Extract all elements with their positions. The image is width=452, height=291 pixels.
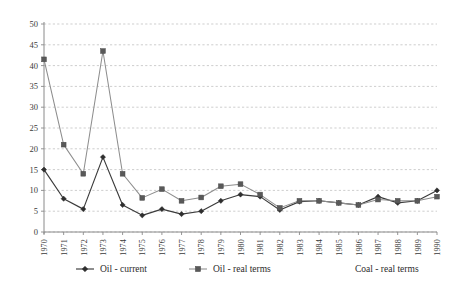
data-point-marker (415, 198, 420, 203)
x-tick-label: 1979 (217, 239, 226, 256)
chart-legend: Oil - currentOil - real termsCoal - real… (76, 264, 419, 274)
y-tick-label: 50 (30, 19, 39, 29)
x-tick-label: 1987 (374, 239, 383, 256)
data-point-marker (81, 171, 86, 176)
data-point-marker (160, 187, 165, 192)
data-point-marker (120, 202, 125, 207)
y-tick-label: 5 (34, 206, 38, 216)
data-point-marker (199, 195, 204, 200)
y-tick-label: 30 (30, 102, 39, 112)
x-tick-label: 1971 (60, 239, 69, 256)
x-tick-label: 1978 (197, 239, 206, 256)
data-point-marker (376, 197, 381, 202)
y-tick-label: 15 (30, 165, 39, 175)
data-series (41, 49, 439, 218)
y-tick-label: 40 (30, 61, 39, 71)
x-tick-label: 1981 (256, 239, 265, 256)
data-point-marker (199, 209, 204, 214)
data-point-marker (140, 195, 145, 200)
legend-item-label: Oil - real terms (213, 264, 271, 274)
data-point-marker (61, 142, 66, 147)
x-tick-label: 1980 (237, 239, 246, 256)
data-point-marker (101, 49, 106, 54)
x-tick-label: 1985 (335, 239, 344, 256)
data-point-marker (120, 171, 125, 176)
data-point-marker (218, 184, 223, 189)
data-point-marker (258, 192, 263, 197)
data-point-marker (336, 200, 341, 205)
x-tick-label: 1972 (80, 239, 89, 256)
data-point-marker (356, 203, 361, 208)
x-tick-label: 1975 (138, 239, 147, 256)
x-tick-label: 1973 (99, 239, 108, 256)
legend-marker-square-icon (195, 266, 200, 271)
legend-marker-diamond-icon (82, 266, 88, 272)
data-point-marker (140, 213, 145, 218)
legend-item-label: Coal - real terms (355, 264, 419, 274)
y-tick-label: 35 (30, 81, 39, 91)
data-point-marker (42, 57, 47, 62)
x-tick-label: 1974 (119, 239, 128, 256)
chart-container: 05101520253035404550 1970197119721973197… (0, 0, 452, 291)
data-point-marker (317, 198, 322, 203)
y-tick-label: 0 (34, 227, 38, 237)
data-point-marker (434, 188, 439, 193)
x-tick-label: 1983 (296, 239, 305, 256)
x-tick-label: 1982 (276, 239, 285, 256)
x-tick-label: 1986 (355, 239, 364, 256)
data-point-marker (218, 198, 223, 203)
y-tick-label: 20 (30, 144, 39, 154)
x-tick-label: 1988 (394, 239, 403, 256)
x-axis: 1970197119721973197419751976197719781979… (40, 232, 442, 256)
x-tick-label: 1970 (40, 239, 49, 256)
y-axis: 05101520253035404550 (30, 19, 45, 237)
data-point-marker (277, 205, 282, 210)
data-point-marker (100, 155, 105, 160)
data-point-marker (179, 212, 184, 217)
data-point-marker (395, 198, 400, 203)
line-chart: 05101520253035404550 1970197119721973197… (0, 0, 452, 291)
y-tick-label: 25 (30, 123, 39, 133)
x-tick-label: 1977 (178, 239, 187, 256)
x-tick-label: 1990 (433, 239, 442, 256)
legend-item-label: Oil - current (100, 264, 147, 274)
data-point-marker (238, 182, 243, 187)
y-tick-label: 10 (30, 185, 39, 195)
data-point-marker (179, 198, 184, 203)
data-point-marker (297, 198, 302, 203)
y-tick-label: 45 (30, 40, 39, 50)
x-tick-label: 1989 (414, 239, 423, 256)
x-tick-label: 1984 (315, 239, 324, 256)
x-tick-label: 1976 (158, 239, 167, 256)
data-point-marker (435, 194, 440, 199)
data-point-marker (238, 192, 243, 197)
